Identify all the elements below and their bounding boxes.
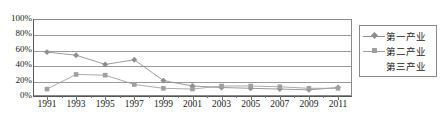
data-point — [102, 61, 108, 67]
x-axis-minor-tickmark — [149, 96, 150, 98]
chart-container: 100%80%60%40%20%0% 199119931995199719992… — [0, 0, 440, 125]
y-axis-tick-label: 80% — [1, 29, 32, 38]
data-point — [132, 82, 137, 87]
legend-item-2[interactable]: 第二产业 — [362, 44, 434, 59]
data-point — [248, 84, 253, 89]
legend-marker-icon — [362, 44, 386, 59]
x-axis-minor-tickmark — [120, 96, 121, 98]
y-axis-line — [33, 19, 34, 97]
data-point — [161, 86, 166, 91]
y-axis-tick-label: 100% — [1, 14, 32, 23]
legend-item-label: 第一产业 — [386, 31, 426, 42]
y-axis-tick-label: 20% — [1, 76, 32, 85]
figure-caption — [250, 113, 438, 125]
data-point — [73, 52, 79, 58]
x-axis-minor-tickmark — [323, 96, 324, 98]
legend: 第一产业第二产业第三产业 — [359, 25, 437, 77]
legend-rows: 第一产业第二产业第三产业 — [362, 29, 434, 74]
x-axis-minor-tickmark — [265, 96, 266, 98]
x-axis-minor-tickmark — [294, 96, 295, 98]
x-axis-minor-tickmark — [62, 96, 63, 98]
legend-marker-icon — [362, 59, 386, 74]
x-axis-minor-tickmark — [207, 96, 208, 98]
legend-item-label: 第三产业 — [386, 61, 426, 72]
y-axis-tick-label: 40% — [1, 60, 32, 69]
x-axis-minor-tickmark — [236, 96, 237, 98]
data-point — [44, 49, 50, 55]
data-point — [103, 73, 108, 78]
x-axis-minor-tickmark — [91, 96, 92, 98]
data-point — [190, 87, 195, 92]
legend-item-3[interactable]: 第三产业 — [362, 59, 434, 74]
data-point — [74, 72, 79, 77]
data-point — [219, 84, 224, 89]
legend-marker-icon — [362, 29, 386, 44]
x-axis-tick-label: 2011 — [321, 99, 355, 110]
x-axis-minor-tickmark — [178, 96, 179, 98]
y-axis-tick-label: 60% — [1, 45, 32, 54]
legend-item-label: 第二产业 — [386, 46, 426, 57]
x-axis-labels: 1991199319951997199920012003200520072009… — [0, 99, 440, 113]
series-layer — [33, 19, 352, 96]
data-point — [307, 86, 312, 91]
data-point — [160, 78, 166, 84]
data-point — [278, 84, 283, 89]
data-point — [45, 87, 50, 92]
data-point — [336, 86, 341, 91]
legend-item-1[interactable]: 第一产业 — [362, 29, 434, 44]
data-point — [131, 57, 137, 63]
